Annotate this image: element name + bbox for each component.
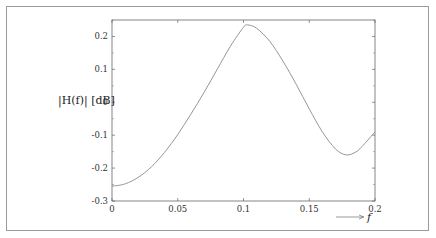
y-tick-label: -0.1 <box>92 130 108 140</box>
y-axis-ticks: -0.3-0.2-0.100.10.2 <box>92 20 375 206</box>
frequency-response-curve <box>112 25 375 187</box>
y-tick-label: 0.1 <box>94 64 108 74</box>
x-tick-label: 0.1 <box>237 204 251 214</box>
y-tick-label: -0.2 <box>92 163 108 173</box>
x-tick-label: 0.05 <box>168 204 187 214</box>
x-tick-label: 0 <box>109 204 114 214</box>
x-tick-label: 0.15 <box>300 204 319 214</box>
x-axis-arrow <box>336 215 364 219</box>
y-tick-label: -0.3 <box>92 196 108 206</box>
x-axis-ticks: 00.050.10.150.2 <box>109 20 381 214</box>
y-tick-label: 0.2 <box>94 31 108 41</box>
line-chart: -0.3-0.2-0.100.10.2 00.050.10.150.2 |H(f… <box>0 0 436 238</box>
plot-axes-box <box>112 20 375 201</box>
y-axis-label: |H(f)| [dB] <box>58 94 115 108</box>
